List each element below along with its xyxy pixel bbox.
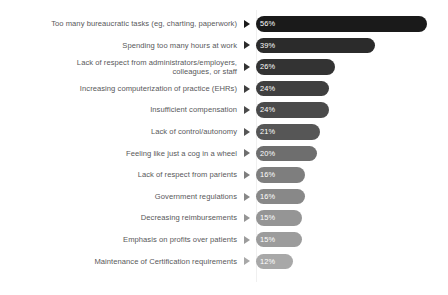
- bar-category-label: Lack of control/autonomy: [0, 127, 237, 136]
- bar-track: 16%: [256, 189, 448, 205]
- bar-value-label: 16%: [260, 171, 275, 178]
- bar-category-label: Government regulations: [0, 192, 237, 201]
- bar-chart: Too many bureaucratic tasks (eg, chartin…: [0, 0, 448, 295]
- triangle-marker-icon: [237, 193, 256, 201]
- bar: 56%: [256, 16, 427, 32]
- bar: 39%: [256, 38, 375, 54]
- triangle-marker-icon: [237, 149, 256, 157]
- triangle-marker-icon: [237, 236, 256, 244]
- bar-track: 20%: [256, 145, 448, 161]
- bar-row: Feeling like just a cog in a wheel20%: [0, 143, 448, 165]
- bar-row: Increasing computerization of practice (…: [0, 78, 448, 100]
- bar-row: Maintenance of Certification requirement…: [0, 251, 448, 273]
- bar-category-label: Lack of respect from parients: [0, 170, 237, 179]
- bar-category-label: Too many bureaucratic tasks (eg, chartin…: [0, 19, 237, 28]
- bar-row: Lack of respect from administrators/empl…: [0, 56, 448, 78]
- bar-track: 24%: [256, 102, 448, 118]
- bar: 24%: [256, 81, 329, 97]
- bar: 26%: [256, 59, 335, 75]
- triangle-marker-icon: [237, 85, 256, 93]
- bar-value-label: 56%: [260, 20, 275, 27]
- bar-track: 15%: [256, 210, 448, 226]
- bar-category-label: Insufficient compensation: [0, 105, 237, 114]
- bar-rows: Too many bureaucratic tasks (eg, chartin…: [0, 13, 448, 272]
- bar-track: 26%: [256, 59, 448, 75]
- bar-category-label: Decreasing reimbursements: [0, 213, 237, 222]
- bar-track: 39%: [256, 37, 448, 53]
- triangle-marker-icon: [237, 214, 256, 222]
- bar: 20%: [256, 146, 317, 162]
- bar-row: Emphasis on profits over patients15%: [0, 229, 448, 251]
- triangle-marker-icon: [237, 128, 256, 136]
- bar-value-label: 26%: [260, 63, 275, 70]
- bar: 24%: [256, 102, 329, 118]
- triangle-marker-icon: [237, 20, 256, 28]
- bar-value-label: 12%: [260, 258, 275, 265]
- bar-row: Spending too many hours at work39%: [0, 35, 448, 57]
- bar: 15%: [256, 232, 302, 248]
- bar-category-label: Spending too many hours at work: [0, 41, 237, 50]
- bar: 16%: [256, 189, 305, 205]
- bar-value-label: 24%: [260, 106, 275, 113]
- bar-track: 24%: [256, 81, 448, 97]
- bar-category-label: Maintenance of Certification requirement…: [0, 257, 237, 266]
- bar: 12%: [256, 254, 293, 270]
- bar-category-label: Emphasis on profits over patients: [0, 235, 237, 244]
- bar-row: Too many bureaucratic tasks (eg, chartin…: [0, 13, 448, 35]
- triangle-marker-icon: [237, 106, 256, 114]
- bar: 16%: [256, 167, 305, 183]
- bar-value-label: 15%: [260, 236, 275, 243]
- bar-category-label: Increasing computerization of practice (…: [0, 84, 237, 93]
- triangle-marker-icon: [237, 63, 256, 71]
- bar: 21%: [256, 124, 320, 140]
- bar-track: 56%: [256, 16, 448, 32]
- bar-row: Lack of control/autonomy21%: [0, 121, 448, 143]
- bar-value-label: 39%: [260, 42, 275, 49]
- bar-value-label: 24%: [260, 85, 275, 92]
- bar-track: 12%: [256, 253, 448, 269]
- bar-category-label: Feeling like just a cog in a wheel: [0, 149, 237, 158]
- bar-value-label: 15%: [260, 214, 275, 221]
- bar-row: Lack of respect from parients16%: [0, 164, 448, 186]
- bar-row: Decreasing reimbursements15%: [0, 207, 448, 229]
- bar-row: Government regulations16%: [0, 186, 448, 208]
- bar-value-label: 20%: [260, 150, 275, 157]
- bar-track: 21%: [256, 124, 448, 140]
- bar-value-label: 21%: [260, 128, 275, 135]
- triangle-marker-icon: [237, 41, 256, 49]
- triangle-marker-icon: [237, 171, 256, 179]
- bar-value-label: 16%: [260, 193, 275, 200]
- bar-track: 16%: [256, 167, 448, 183]
- bar-category-label: Lack of respect from administrators/empl…: [0, 58, 237, 77]
- triangle-marker-icon: [237, 257, 256, 265]
- bar: 15%: [256, 210, 302, 226]
- bar-row: Insufficient compensation24%: [0, 99, 448, 121]
- bar-track: 15%: [256, 232, 448, 248]
